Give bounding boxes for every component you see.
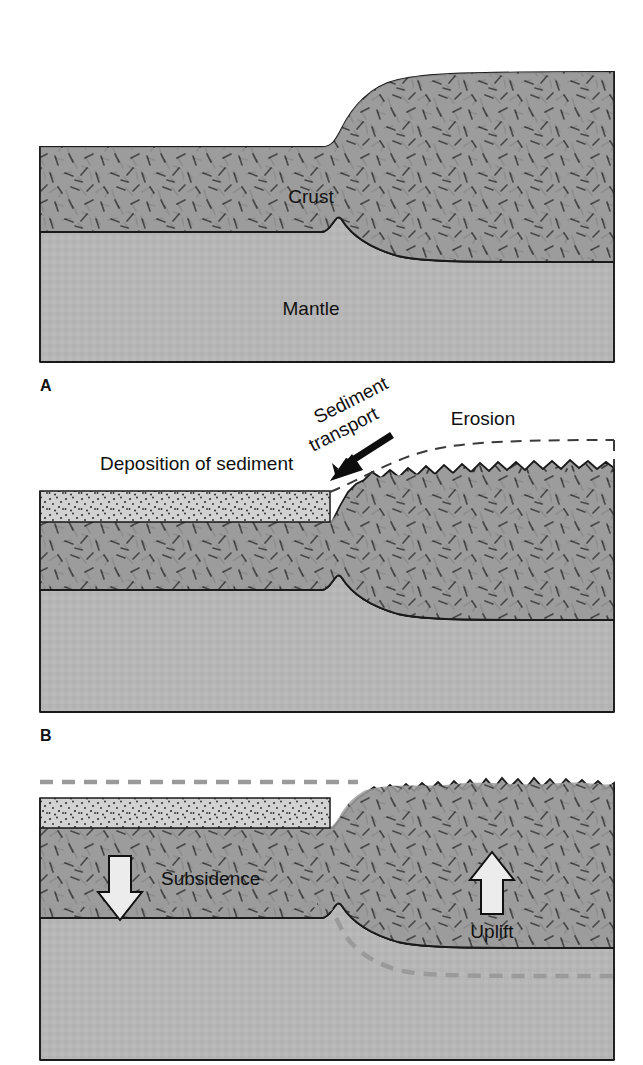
crust-label: Crust — [288, 186, 334, 207]
subsidence-label: Subsidence — [161, 868, 260, 889]
panel-a-letter: A — [40, 377, 52, 394]
deposition-label: Deposition of sediment — [100, 453, 294, 474]
erosion-label: Erosion — [451, 408, 515, 429]
mantle-label: Mantle — [282, 298, 339, 319]
panel-b-letter: B — [40, 727, 52, 744]
panel-c-sediment-layer — [40, 798, 330, 828]
uplift-label: Uplift — [470, 921, 514, 942]
panel-c: Subsidence Uplift — [40, 778, 614, 1060]
geology-cross-section-figure: Crust Mantle A Deposition of se — [0, 0, 643, 1065]
panel-b-sediment-layer — [40, 491, 330, 522]
